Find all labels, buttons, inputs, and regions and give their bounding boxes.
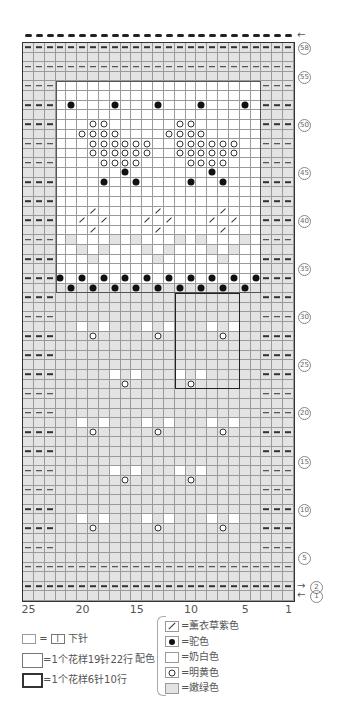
yellow-ring-symbol: [122, 381, 129, 388]
chart-cell: [34, 264, 45, 274]
chart-cell: [186, 380, 197, 390]
chart-cell: [56, 62, 67, 72]
chart-cell: [34, 514, 45, 524]
chart-cell: [251, 514, 262, 524]
chart-cell: [110, 149, 121, 159]
chart-cell: [186, 553, 197, 563]
chart-cell: [88, 149, 99, 159]
chart-cell: [34, 139, 45, 149]
chart-cell: [121, 158, 132, 168]
chart-cell: [121, 130, 132, 140]
chart-cell: [175, 380, 186, 390]
chart-cell: [121, 255, 132, 265]
chart-cell: [56, 110, 67, 120]
chart-cell: [99, 303, 110, 313]
chart-cell: [196, 572, 207, 582]
chart-cell: [88, 53, 99, 63]
chart-cell: [240, 505, 251, 515]
chart-cell: [251, 409, 262, 419]
chart-cell: [196, 187, 207, 197]
purl-symbol: [25, 508, 31, 510]
chart-cell: [45, 380, 56, 390]
purl-symbol: [36, 374, 42, 376]
chart-cell: [153, 322, 164, 332]
chart-cell: [110, 409, 121, 419]
purl-symbol: [25, 470, 31, 472]
chart-cell: [261, 110, 272, 120]
chart-cell: [88, 255, 99, 265]
purl-symbol: [36, 508, 42, 510]
chart-cell: [66, 332, 77, 342]
chart-cell: [110, 245, 121, 255]
lavender-diagonal-symbol: [220, 227, 226, 233]
chart-cell: [77, 274, 88, 284]
chart-cell: [229, 130, 240, 140]
chart-cell: [218, 284, 229, 294]
color-legend-title: 配色: [135, 650, 155, 665]
chart-cell: [77, 409, 88, 419]
chart-cell: [251, 341, 262, 351]
chart-cell: [99, 476, 110, 486]
chart-cell: [56, 312, 67, 322]
chart-cell: [175, 178, 186, 188]
chart-cell: [229, 72, 240, 82]
chart-cell: [251, 235, 262, 245]
chart-cell: [261, 264, 272, 274]
chart-cell: [45, 457, 56, 467]
chart-cell: [121, 101, 132, 111]
chart-cell: [77, 264, 88, 274]
chart-cell: [66, 72, 77, 82]
purl-symbol: [36, 143, 42, 145]
chart-cell: [229, 360, 240, 370]
chart-cell: [272, 572, 283, 582]
chart-cell: [110, 572, 121, 582]
yellow-ring-symbol: [89, 525, 96, 532]
chart-cell: [229, 245, 240, 255]
chart-cell: [110, 255, 121, 265]
chart-cell: [66, 524, 77, 534]
chart-cell: [142, 207, 153, 217]
chart-cell: [218, 81, 229, 91]
chart-cell: [23, 351, 34, 361]
chart-cell: [229, 591, 240, 601]
chart-cell: [196, 168, 207, 178]
chart-cell: [261, 370, 272, 380]
chart-cell: [142, 572, 153, 582]
chart-cell: [23, 130, 34, 140]
chart-cell: [186, 534, 197, 544]
chart-cell: [218, 437, 229, 447]
yellow-ring-symbol: [111, 150, 118, 157]
chart-cell: [142, 216, 153, 226]
chart-cell: [272, 399, 283, 409]
chart-cell: [272, 553, 283, 563]
chart-cell: [45, 91, 56, 101]
chart-cell: [34, 245, 45, 255]
chart-cell: [240, 139, 251, 149]
chart-cell: [110, 120, 121, 130]
chart-cell: [207, 130, 218, 140]
chart-cell: [207, 514, 218, 524]
chart-cell: [142, 178, 153, 188]
chart-cell: [175, 389, 186, 399]
chart-cell: [99, 53, 110, 63]
chart-cell: [88, 101, 99, 111]
chart-cell: [164, 187, 175, 197]
chart-cell: [121, 495, 132, 505]
chart-cell: [34, 149, 45, 159]
chart-cell: [272, 524, 283, 534]
purl-symbol: [285, 393, 291, 395]
chart-cell: [66, 553, 77, 563]
chart-cell: [164, 226, 175, 236]
lavender-diagonal-symbol: [231, 218, 237, 224]
chart-cell: [272, 360, 283, 370]
chart-cell: [218, 264, 229, 274]
chart-cell: [240, 360, 251, 370]
chart-cell: [283, 399, 294, 409]
chart-cell: [196, 81, 207, 91]
chart-cell: [218, 110, 229, 120]
chart-cell: [56, 187, 67, 197]
purl-symbol: [47, 123, 53, 125]
chart-cell: [196, 380, 207, 390]
purl-symbol: [285, 162, 291, 164]
chart-cell: [261, 534, 272, 544]
